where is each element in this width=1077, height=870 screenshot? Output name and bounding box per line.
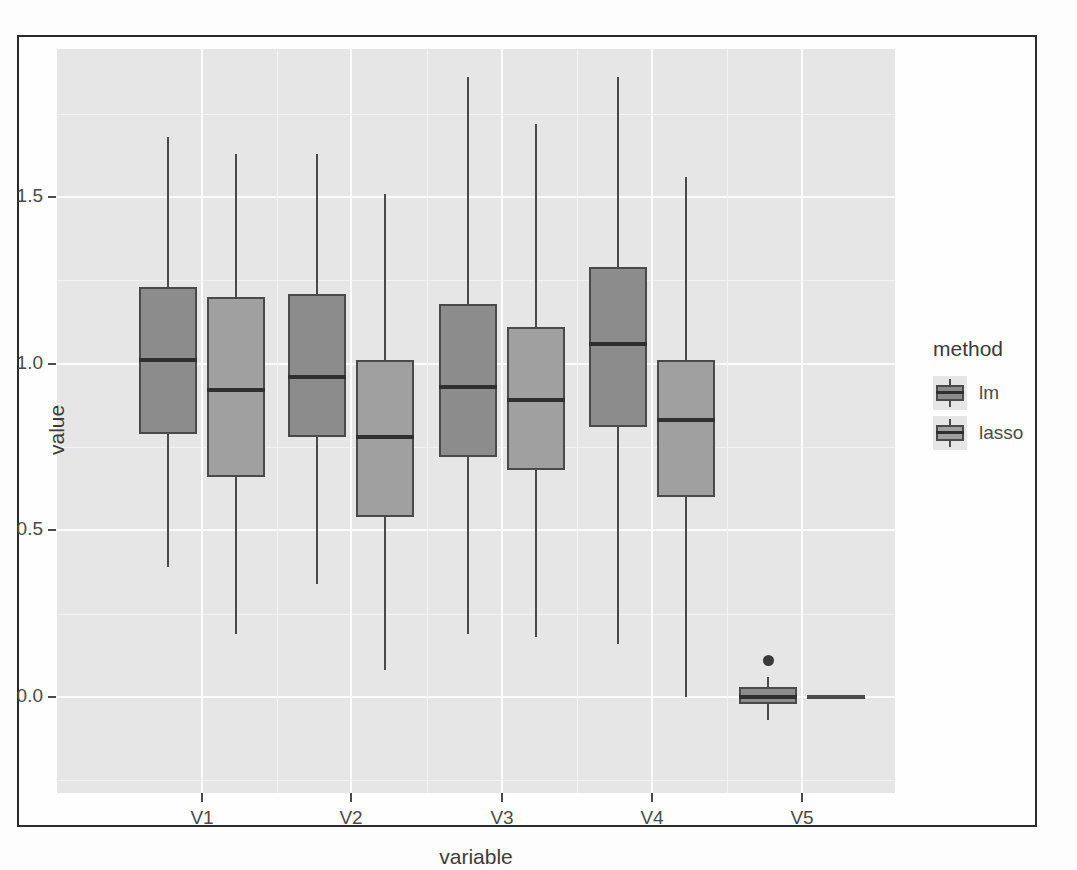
boxplot-median <box>739 695 797 699</box>
legend-item-lm[interactable]: lm <box>933 373 1023 413</box>
boxplot-outlier-point <box>763 655 774 666</box>
y-tick-mark <box>48 529 56 531</box>
legend-label-lm: lm <box>979 382 999 404</box>
boxplot-median <box>207 388 265 392</box>
boxplot-whisker-lower <box>767 704 769 721</box>
gridline-x-major <box>801 49 803 793</box>
x-tick-mark <box>201 793 203 802</box>
figure-frame: 0.00.51.01.5V1V2V3V4V5variablevalue meth… <box>17 35 1037 827</box>
x-tick-mark <box>350 793 352 802</box>
boxplot-whisker-lower <box>617 427 619 644</box>
boxplot-median <box>507 398 565 402</box>
boxplot-median <box>356 435 414 439</box>
boxplot-box <box>439 304 497 457</box>
boxplot-whisker-upper <box>235 154 237 297</box>
gridline-x-minor <box>727 49 728 793</box>
boxplot-whisker-lower <box>316 437 318 584</box>
boxplot-box <box>207 297 265 477</box>
gridline-y-major <box>57 529 895 531</box>
legend-key-lasso-icon <box>933 416 967 450</box>
boxplot-median <box>439 385 497 389</box>
x-tick-label-v3: V3 <box>452 807 552 829</box>
boxplot-flat-line <box>807 695 865 699</box>
boxplot-whisker-upper <box>535 124 537 327</box>
y-tick-label: 0.5 <box>0 518 43 540</box>
legend-label-lasso: lasso <box>979 422 1023 444</box>
boxplot-whisker-lower <box>167 434 169 567</box>
x-tick-label-v4: V4 <box>602 807 702 829</box>
y-tick-label: 1.5 <box>0 185 43 207</box>
boxplot-box <box>589 267 647 427</box>
gridline-x-minor <box>427 49 428 793</box>
legend-item-lasso[interactable]: lasso <box>933 413 1023 453</box>
boxplot-whisker-lower <box>685 497 687 697</box>
boxplot-whisker-lower <box>467 457 469 634</box>
gridline-x-minor <box>277 49 278 793</box>
boxplot-median <box>657 418 715 422</box>
x-tick-mark <box>501 793 503 802</box>
y-axis-title: value <box>45 405 69 455</box>
boxplot-whisker-upper <box>685 177 687 360</box>
boxplot-whisker-upper <box>167 137 169 287</box>
boxplot-whisker-lower <box>384 517 386 670</box>
boxplot-whisker-upper <box>316 154 318 294</box>
figure-root: 0.00.51.01.5V1V2V3V4V5variablevalue meth… <box>0 0 1077 870</box>
gridline-y-minor <box>57 780 895 781</box>
x-tick-label-v2: V2 <box>301 807 401 829</box>
boxplot-whisker-upper <box>467 77 469 304</box>
gridline-y-minor <box>57 614 895 615</box>
boxplot-median <box>139 358 197 362</box>
plot-panel: 0.00.51.01.5V1V2V3V4V5variablevalue <box>19 37 1035 825</box>
gridline-y-major <box>57 196 895 198</box>
gridline-y-minor <box>57 114 895 115</box>
boxplot-whisker-upper <box>617 77 619 267</box>
gridline-x-minor <box>577 49 578 793</box>
gridline-y-minor <box>57 280 895 281</box>
x-tick-mark <box>651 793 653 802</box>
x-axis-title: variable <box>57 845 895 869</box>
boxplot-median <box>288 375 346 379</box>
x-tick-mark <box>801 793 803 802</box>
y-tick-label: 1.0 <box>0 352 43 374</box>
gridline-x-major <box>350 49 352 793</box>
boxplot-whisker-upper <box>767 677 769 687</box>
y-tick-label: 0.0 <box>0 685 43 707</box>
boxplot-whisker-upper <box>384 194 386 361</box>
boxplot-median <box>589 342 647 346</box>
gridline-x-major <box>501 49 503 793</box>
boxplot-box <box>288 294 346 437</box>
legend: method lm lasso <box>933 337 1023 453</box>
boxplot-box <box>657 360 715 497</box>
gridline-x-major <box>651 49 653 793</box>
legend-title: method <box>933 337 1023 361</box>
legend-key-lm-icon <box>933 376 967 410</box>
boxplot-whisker-lower <box>535 470 537 637</box>
x-tick-label-v1: V1 <box>152 807 252 829</box>
y-tick-mark <box>48 696 56 698</box>
x-tick-label-v5: V5 <box>752 807 852 829</box>
gridline-x-major <box>201 49 203 793</box>
y-tick-mark <box>48 363 56 365</box>
boxplot-whisker-lower <box>235 477 237 634</box>
y-tick-mark <box>48 196 56 198</box>
